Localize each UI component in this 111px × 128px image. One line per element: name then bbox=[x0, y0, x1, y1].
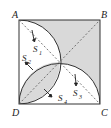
vertex-d: D bbox=[11, 107, 20, 118]
vertex-a: A bbox=[11, 9, 19, 20]
svg-text:S: S bbox=[33, 44, 38, 54]
svg-text:S: S bbox=[73, 88, 78, 98]
vertex-b: B bbox=[101, 9, 107, 20]
svg-text:2: 2 bbox=[28, 59, 31, 65]
geometry-figure: A B C D S 1 S 2 S 3 S 4 bbox=[0, 0, 111, 128]
svg-text:1: 1 bbox=[39, 50, 42, 56]
svg-text:S: S bbox=[58, 93, 63, 103]
svg-text:3: 3 bbox=[78, 94, 82, 100]
vertex-c: C bbox=[101, 107, 108, 118]
svg-text:S: S bbox=[22, 53, 27, 63]
svg-text:4: 4 bbox=[64, 99, 67, 105]
